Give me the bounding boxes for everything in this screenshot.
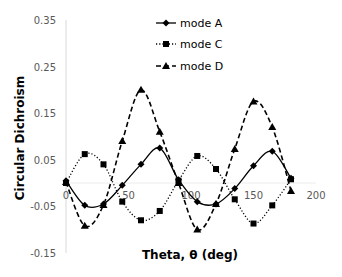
y-axis-ticks: 0.350.250.150.05-0.05-0.15: [30, 15, 56, 259]
square-marker-icon: [138, 217, 144, 223]
triangle-marker-icon: [156, 128, 164, 135]
x-tick-label: 200: [306, 190, 325, 201]
square-marker-icon: [101, 161, 107, 167]
square-marker-icon: [232, 196, 238, 202]
x-tick-label: 0: [63, 190, 69, 201]
x-tick-label: 150: [244, 190, 263, 201]
square-marker-icon: [194, 153, 200, 159]
y-tick-label: -0.15: [30, 248, 56, 259]
y-tick-label: 0.05: [34, 155, 56, 166]
legend-label: mode D: [180, 60, 223, 73]
y-tick-label: 0.25: [34, 62, 56, 73]
square-marker-icon: [82, 151, 88, 157]
square-marker-icon: [157, 208, 163, 214]
x-axis-title: Theta, θ (deg): [142, 248, 238, 262]
legend-item-mode-a: mode A: [156, 17, 223, 30]
legend-item-mode-d: mode D: [156, 60, 223, 73]
series-layer: [62, 86, 295, 233]
y-axis-title: Circular Dichroism: [13, 76, 27, 200]
legend-label: mode A: [180, 17, 223, 30]
triangle-marker-icon: [231, 145, 239, 152]
square-marker-icon: [251, 221, 257, 227]
triangle-marker-icon: [118, 137, 126, 144]
y-tick-label: -0.05: [30, 201, 56, 212]
line-chart: 0.350.250.150.05-0.05-0.15 050100150200 …: [0, 0, 342, 277]
square-marker-icon: [163, 41, 169, 47]
triangle-marker-icon: [287, 187, 295, 194]
triangle-marker-icon: [137, 86, 145, 93]
triangle-marker-icon: [268, 123, 276, 130]
legend-item-mode-c: mode C: [156, 38, 223, 51]
square-marker-icon: [213, 166, 219, 172]
square-marker-icon: [119, 199, 125, 205]
y-tick-label: 0.35: [34, 15, 56, 26]
legend-label: mode C: [180, 38, 223, 51]
diamond-marker-icon: [163, 20, 170, 27]
y-tick-label: 0.15: [34, 108, 56, 119]
square-marker-icon: [269, 202, 275, 208]
legend: mode A mode C mode D: [156, 17, 223, 73]
